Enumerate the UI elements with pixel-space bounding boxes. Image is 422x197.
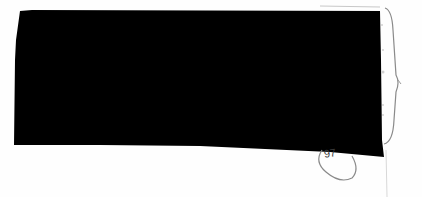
page-number: 97 bbox=[323, 146, 336, 159]
page-graphics bbox=[0, 0, 422, 197]
redaction-block bbox=[14, 10, 384, 157]
margin-bracket bbox=[384, 8, 398, 144]
vertical-rule bbox=[386, 150, 387, 197]
scanned-page: 97 bbox=[0, 0, 422, 197]
top-edge-line bbox=[320, 6, 380, 7]
